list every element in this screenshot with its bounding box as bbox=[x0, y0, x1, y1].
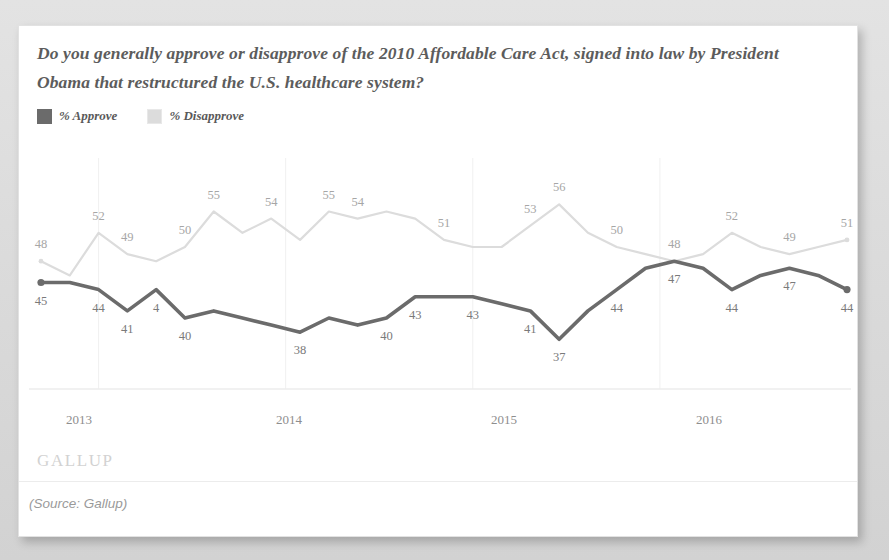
line-chart-plot: 4544414403840434341374447444744485249505… bbox=[19, 26, 858, 537]
x-axis-tick-label: 2015 bbox=[491, 412, 517, 427]
data-label-approve: 41 bbox=[121, 322, 134, 336]
data-label-approve: 38 bbox=[294, 343, 307, 357]
gallup-watermark: GALLUP bbox=[37, 451, 114, 471]
series-endpoint-disapprove bbox=[39, 259, 44, 264]
data-label-disapprove: 51 bbox=[438, 216, 451, 230]
x-axis-tick-label: 2013 bbox=[66, 412, 92, 427]
data-label-disapprove: 50 bbox=[179, 223, 192, 237]
data-label-approve: 44 bbox=[92, 301, 105, 315]
data-label-approve: 37 bbox=[553, 350, 566, 364]
x-axis-tick-label: 2014 bbox=[276, 412, 303, 427]
data-label-approve: 4 bbox=[153, 301, 160, 315]
series-endpoint-disapprove bbox=[845, 238, 850, 243]
series-endpoint-approve bbox=[843, 286, 850, 293]
data-label-disapprove: 52 bbox=[726, 209, 739, 223]
data-label-approve: 40 bbox=[179, 329, 192, 343]
data-label-approve: 43 bbox=[409, 308, 422, 322]
data-label-disapprove: 52 bbox=[92, 209, 105, 223]
data-label-disapprove: 54 bbox=[265, 195, 278, 209]
data-label-approve: 43 bbox=[467, 308, 480, 322]
data-label-approve: 44 bbox=[610, 301, 623, 315]
data-label-disapprove: 49 bbox=[783, 230, 796, 244]
footer-divider bbox=[19, 481, 858, 482]
data-label-disapprove: 55 bbox=[207, 188, 220, 202]
data-label-disapprove: 50 bbox=[610, 223, 623, 237]
series-endpoint-approve bbox=[37, 279, 44, 286]
data-label-disapprove: 54 bbox=[351, 195, 364, 209]
data-label-approve: 47 bbox=[668, 272, 681, 286]
data-label-approve: 47 bbox=[783, 279, 796, 293]
data-label-approve: 40 bbox=[380, 329, 393, 343]
x-axis-tick-label: 2016 bbox=[696, 412, 723, 427]
data-label-approve: 44 bbox=[726, 301, 739, 315]
data-label-disapprove: 48 bbox=[668, 237, 681, 251]
data-label-disapprove: 51 bbox=[841, 216, 854, 230]
data-label-disapprove: 56 bbox=[553, 180, 566, 194]
data-label-disapprove: 48 bbox=[35, 237, 48, 251]
data-label-approve: 45 bbox=[35, 294, 48, 308]
source-attribution: (Source: Gallup) bbox=[29, 496, 127, 511]
data-label-disapprove: 53 bbox=[524, 202, 537, 216]
chart-card: Do you generally approve or disapprove o… bbox=[18, 25, 858, 537]
data-label-approve: 41 bbox=[524, 322, 537, 336]
data-label-disapprove: 49 bbox=[121, 230, 134, 244]
data-label-approve: 44 bbox=[841, 301, 854, 315]
data-label-disapprove: 55 bbox=[323, 188, 336, 202]
